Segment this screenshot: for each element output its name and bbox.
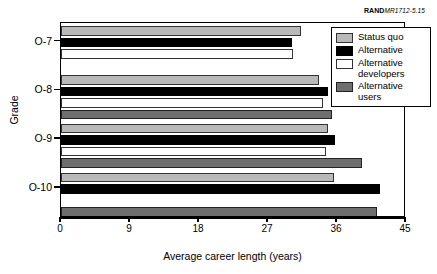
legend-swatch-icon	[336, 82, 353, 92]
legend-item[interactable]: Alternative developers	[336, 58, 426, 79]
x-axis-title: Average career length (years)	[60, 250, 405, 262]
x-axis-tick-label: 45	[399, 223, 410, 235]
legend-item[interactable]: Status quo	[336, 32, 426, 43]
y-axis-tick	[54, 186, 60, 187]
bar	[61, 184, 380, 194]
bar	[61, 98, 323, 108]
bar	[61, 49, 293, 59]
bar	[61, 147, 326, 157]
bar	[61, 87, 328, 97]
rand-logo-text: RAND	[364, 7, 385, 14]
bar	[61, 110, 332, 120]
y-axis-tick	[54, 40, 60, 41]
x-axis-tick	[128, 217, 129, 222]
bar	[61, 207, 377, 217]
legend-swatch-icon	[336, 59, 353, 69]
legend-item[interactable]: Alternative	[336, 45, 426, 56]
y-axis-tick	[54, 89, 60, 90]
x-axis-tick	[335, 217, 336, 222]
bar-group	[61, 121, 404, 170]
x-axis-tick-label: 36	[330, 223, 341, 235]
chart-legend: Status quoAlternativeAlternative develop…	[331, 27, 431, 107]
bar	[61, 158, 362, 168]
bar	[61, 124, 328, 134]
chart-figure: RANDMR1712-5.15 Grade O-7O-8O-9O-10 Aver…	[0, 0, 437, 274]
legend-item-label: Alternative	[358, 45, 403, 56]
y-axis-tick	[54, 137, 60, 138]
legend-item[interactable]: Alternative users	[336, 81, 426, 102]
x-axis-tick	[266, 217, 267, 222]
x-axis-line	[60, 217, 405, 219]
bar	[61, 38, 292, 48]
bar-group	[61, 169, 404, 217]
bar	[61, 75, 319, 85]
x-axis-tick-label: 18	[192, 223, 203, 235]
x-axis-tick-label: 27	[261, 223, 272, 235]
x-axis-tick-label: 0	[57, 223, 63, 235]
legend-item-label: Alternative developers	[358, 58, 404, 79]
legend-item-label: Alternative users	[358, 81, 403, 102]
y-axis-tick-labels: O-7O-8O-9O-10	[0, 0, 52, 274]
x-axis-tick-label: 9	[126, 223, 132, 235]
x-axis-tick	[59, 217, 60, 222]
bar	[61, 173, 334, 183]
x-axis-tick	[404, 217, 405, 222]
bar	[61, 135, 335, 145]
y-axis-tick-label: O-10	[29, 181, 52, 193]
x-axis-tick	[197, 217, 198, 222]
document-id: MR1712-5.15	[385, 7, 425, 14]
bar	[61, 26, 301, 36]
legend-swatch-icon	[336, 46, 353, 56]
y-axis-tick-label: O-7	[34, 35, 52, 47]
y-axis-tick-label: O-8	[34, 83, 52, 95]
source-credit: RANDMR1712-5.15	[364, 6, 425, 15]
legend-item-label: Status quo	[358, 32, 403, 43]
y-axis-tick-label: O-9	[34, 132, 52, 144]
legend-swatch-icon	[336, 33, 353, 43]
